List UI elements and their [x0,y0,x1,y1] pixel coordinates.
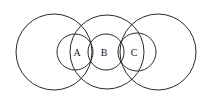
circles-diagram: A B C [0,0,209,100]
label-a: A [73,47,81,58]
label-c: C [131,47,138,58]
label-b: B [101,47,108,58]
labels: A B C [73,47,137,58]
